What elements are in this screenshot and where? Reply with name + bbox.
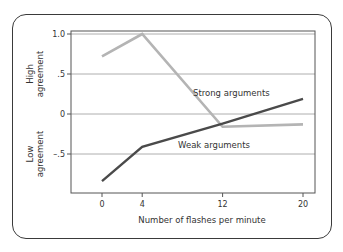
y-tick-label: .5	[57, 70, 65, 79]
low-label-line1: Low	[25, 146, 35, 163]
x-tick-label: 12	[218, 200, 228, 209]
y-axis-ticks: 1.0.50–.5	[52, 30, 71, 159]
x-axis-title: Number of flashes per minute	[138, 215, 265, 225]
x-tick-label: 0	[99, 200, 104, 209]
axes	[71, 31, 315, 193]
x-tick-label: 4	[140, 200, 145, 209]
weak-arguments-label: Weak arguments	[178, 140, 251, 150]
high-label-line2: agreement	[35, 50, 45, 97]
x-axis-ticks: 041220	[99, 193, 308, 209]
low-label-line2: agreement	[35, 130, 45, 177]
high-label-line1: High	[25, 64, 35, 84]
strong-arguments-label: Strong arguments	[193, 88, 270, 98]
y-tick-label: 1.0	[52, 30, 65, 39]
line-chart: 1.0.50–.5 041220 Strong arguments Weak a…	[0, 0, 343, 252]
data-series	[102, 34, 303, 181]
y-axis-low-label: Low agreement	[25, 130, 45, 177]
y-tick-label: 0	[60, 110, 65, 119]
x-tick-label: 20	[298, 200, 308, 209]
strong-arguments-line	[102, 34, 303, 127]
y-axis-high-label: High agreement	[25, 50, 45, 97]
plot-area-border	[71, 31, 315, 193]
y-tick-label: –.5	[53, 150, 65, 159]
